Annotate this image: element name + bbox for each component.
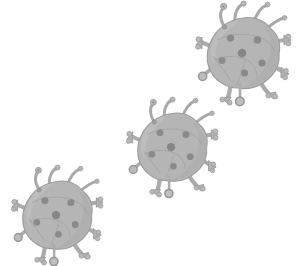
illustration-canvas: Virus particles illustration xyxy=(0,0,306,266)
virus-scene: Virus particles illustration xyxy=(0,0,306,266)
